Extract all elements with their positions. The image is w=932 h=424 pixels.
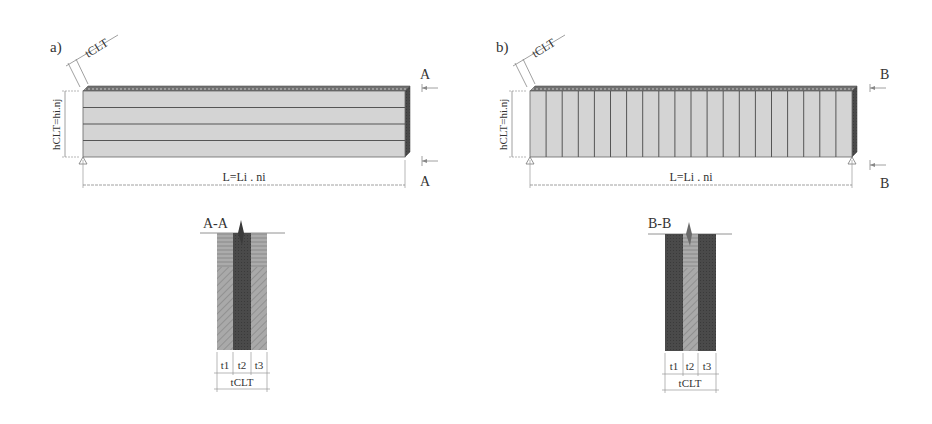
section-a-a-title: A-A (203, 216, 229, 231)
section-marker-a: A A (420, 67, 438, 189)
panel-a-thickness-label: tCLT (82, 35, 111, 60)
beam-b-top-face (530, 86, 857, 91)
panel-b-thickness-label: tCLT (529, 35, 558, 60)
section-b-layer-3 (698, 234, 716, 351)
section-a-layer-2 (233, 233, 251, 350)
panel-b-label: b) (496, 39, 509, 56)
panel-b-length-label: L=Li . ni (669, 170, 713, 184)
panel-b-height-dimension: hCLT=hi.nj (497, 91, 527, 157)
panel-b-height-label: hCLT=hi.nj (497, 99, 509, 150)
panel-a-height-dimension: hCLT=hi.nj (50, 91, 80, 157)
section-marker-a-top: A (420, 67, 431, 82)
section-a-t2: t2 (238, 359, 247, 371)
section-marker-b-bottom: B (880, 176, 889, 191)
section-marker-b: B B (870, 67, 889, 191)
section-b-b-title: B-B (648, 216, 671, 231)
beam-b-end-face (852, 86, 857, 157)
section-a-total: tCLT (231, 376, 254, 388)
panel-b: b) tCLT hCLT=hi.nj L=Li . ni B (496, 35, 889, 393)
section-a-t1: t1 (221, 359, 230, 371)
panel-a-label: a) (50, 39, 62, 56)
section-a-a: A-A t1 t2 t3 tCLT (200, 216, 285, 392)
section-marker-b-top: B (880, 67, 889, 82)
section-b-t2: t2 (686, 360, 695, 372)
section-b-t1: t1 (670, 360, 679, 372)
panel-b-length-dimension: L=Li . ni (530, 160, 852, 188)
panel-a: a) tCLT hCLT=hi.nj L=Li (50, 35, 438, 392)
beam-a-top-face (83, 86, 410, 91)
section-a-t3: t3 (255, 359, 264, 371)
panel-b-thickness-dimension: tCLT (513, 35, 565, 87)
section-marker-a-bottom: A (420, 174, 431, 189)
beam-a-end-face (405, 86, 410, 157)
section-b-layer-1 (665, 234, 683, 351)
section-b-t3: t3 (703, 360, 712, 372)
panel-a-thickness-dimension: tCLT (66, 35, 118, 87)
panel-a-length-label: L=Li . ni (222, 170, 266, 184)
section-b-b: B-B t1 t2 t3 tCLT (648, 216, 732, 393)
panel-a-length-dimension: L=Li . ni (83, 160, 405, 188)
panel-a-height-label: hCLT=hi.nj (50, 99, 62, 150)
section-b-total: tCLT (679, 377, 702, 389)
clt-diagram: a) tCLT hCLT=hi.nj L=Li (0, 0, 932, 424)
